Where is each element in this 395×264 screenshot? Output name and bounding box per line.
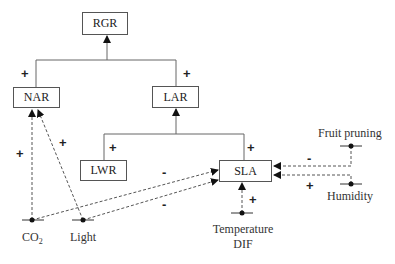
solid-tree-lines — [36, 36, 244, 160]
node-rgr: RGR — [82, 12, 128, 35]
sign-nar-rgr: + — [21, 67, 29, 80]
sign-sla-lar: + — [247, 141, 255, 154]
sign-lwr-lar: + — [109, 141, 117, 154]
factor-dif: DIF — [212, 237, 274, 252]
sign-fruit-pruning-sla: - — [307, 152, 311, 165]
sign-light-nar: + — [59, 136, 67, 149]
factor-light: Light — [70, 230, 96, 245]
sign-co2-sla: - — [162, 166, 166, 179]
node-nar: NAR — [13, 87, 60, 108]
factor-humidity: Humidity — [327, 189, 373, 204]
sign-lar-rgr: + — [183, 67, 191, 80]
sign-temperature-sla: + — [249, 193, 257, 206]
sign-humidity-sla: + — [306, 179, 314, 192]
factor-temperature: Temperature — [212, 222, 274, 237]
node-sla: SLA — [219, 160, 272, 182]
node-lar: LAR — [152, 86, 199, 108]
factor-co2: CO2 — [22, 230, 43, 246]
node-lwr: LWR — [80, 160, 127, 181]
sign-co2-nar: + — [16, 147, 24, 160]
factor-fruit-pruning: Fruit pruning — [318, 126, 382, 141]
sign-light-sla: - — [162, 198, 166, 211]
